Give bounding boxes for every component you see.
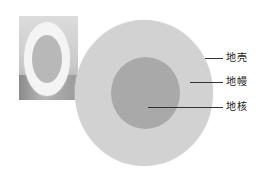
egg-yolk <box>32 35 62 83</box>
mantle-label: 地幔 <box>226 76 248 88</box>
crust-label: 地壳 <box>226 52 248 64</box>
mantle-leader-line <box>190 82 223 83</box>
core-leader-line <box>148 107 223 108</box>
core-label: 地核 <box>226 101 248 113</box>
earth-core-circle <box>111 57 180 129</box>
crust-leader-line <box>205 58 223 59</box>
egg-cross-section-photo <box>19 16 78 100</box>
